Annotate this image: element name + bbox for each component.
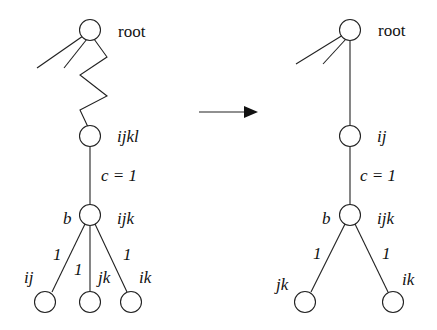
- right-ik-edge-weight: 1: [382, 244, 391, 263]
- left-jk-leaf: [80, 292, 101, 313]
- left-jk-label: jk: [96, 268, 111, 287]
- left-root-node: [80, 20, 101, 41]
- right-tree: root ij c = 1 b ijk 1 1 jk ik: [274, 20, 415, 313]
- tree-diagram: root ijkl c = 1 b ijk 1 1 1 ij jk ik roo…: [0, 0, 437, 330]
- left-tree: root ijkl c = 1 b ijk 1 1 1 ij jk ik: [24, 20, 152, 313]
- right-ijk-node: [340, 205, 361, 226]
- left-jk-edge-weight: 1: [74, 260, 83, 279]
- left-root-label: root: [118, 22, 146, 41]
- right-jk-edge-weight: 1: [313, 244, 322, 263]
- right-ijk-label: ijk: [377, 209, 394, 228]
- transform-arrow: [199, 106, 258, 118]
- right-c-label: c = 1: [360, 166, 396, 185]
- right-ij-node: [340, 126, 361, 147]
- left-ij-leaf: [35, 292, 56, 313]
- left-root-branch-2: [64, 39, 87, 68]
- left-ijkl-node: [80, 126, 101, 147]
- left-ik-edge-weight: 1: [123, 245, 132, 264]
- left-c-label: c = 1: [101, 166, 137, 185]
- right-jk-label: jk: [274, 275, 289, 294]
- right-ik-label: ik: [402, 270, 415, 289]
- right-jk-leaf: [295, 292, 316, 313]
- left-zigzag-path: [80, 39, 107, 127]
- left-ik-leaf: [121, 292, 142, 313]
- arrow-head-icon: [244, 106, 258, 118]
- right-ij-label: ij: [377, 127, 387, 146]
- right-root-node: [340, 20, 361, 41]
- right-root-branch-2: [323, 39, 346, 64]
- left-b-label: b: [63, 209, 72, 228]
- left-ij-edge-weight: 1: [53, 245, 62, 264]
- left-ij-label: ij: [24, 268, 34, 287]
- left-ik-label: ik: [139, 268, 152, 287]
- right-ik-leaf: [383, 292, 404, 313]
- right-root-label: root: [378, 21, 406, 40]
- right-b-label: b: [322, 209, 331, 228]
- left-ijk-node: [80, 205, 101, 226]
- left-ijkl-label: ijkl: [117, 127, 139, 146]
- left-ijk-label: ijk: [117, 209, 134, 228]
